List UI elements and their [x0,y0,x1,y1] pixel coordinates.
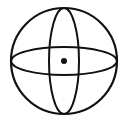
sphere-icon [0,0,125,121]
sphere-diagram [0,0,125,121]
center-point [61,58,67,64]
